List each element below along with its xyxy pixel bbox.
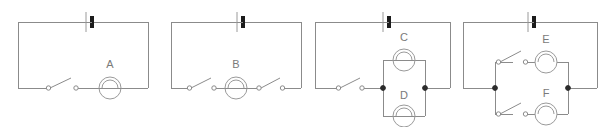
circuit-diagram-figure: A <box>0 0 608 127</box>
switch-terminal-right-icon <box>74 86 78 90</box>
lamp-a-label: A <box>106 58 114 70</box>
switch-blade-icon <box>500 51 521 62</box>
lamp-c-label: C <box>400 31 408 43</box>
switch-blade-icon <box>500 103 521 114</box>
switch-1-circuit-2[interactable] <box>187 78 216 90</box>
switch-terminal-left-icon <box>187 86 191 90</box>
switch-terminal-left-icon <box>336 86 340 90</box>
circuit-4-group: E F <box>463 12 597 125</box>
switch-terminal-left-icon <box>496 60 500 64</box>
lamp-c: C <box>393 31 415 71</box>
lamp-d: D <box>393 89 415 127</box>
circuit-2-group: B <box>171 12 301 99</box>
junction-node-right-3 <box>423 86 428 91</box>
switch-terminal-right-icon <box>212 86 216 90</box>
lamp-filament-arc-icon <box>102 80 118 88</box>
lamp-b: B <box>225 58 247 99</box>
switch-blade-icon <box>50 78 71 88</box>
switch-blade-icon <box>191 78 211 88</box>
lamp-filament-arc-icon <box>396 108 412 116</box>
switch-1-circuit-3[interactable] <box>336 78 364 90</box>
switch-blade-icon <box>261 78 280 88</box>
circuit-1-group: A <box>18 12 148 99</box>
lamp-d-label: D <box>400 89 408 101</box>
battery-cell-4 <box>528 12 534 32</box>
junction-node-right-4 <box>566 86 571 91</box>
switch-terminal-right-icon <box>523 60 527 64</box>
lamp-filament-arc-icon <box>228 80 244 88</box>
switch-blade-icon <box>340 78 360 88</box>
lamp-e: E <box>535 33 557 73</box>
lamp-f: F <box>535 87 557 125</box>
junction-node-left-3 <box>381 86 386 91</box>
lamp-filament-arc-icon <box>396 52 412 60</box>
battery-cell-2 <box>237 12 243 32</box>
lamp-e-label: E <box>542 33 549 45</box>
switch-terminal-right-icon <box>360 86 364 90</box>
lamp-filament-arc-icon <box>538 106 554 114</box>
lamp-a: A <box>99 58 121 99</box>
circuit-1: A <box>0 0 608 127</box>
switch-terminal-right-icon <box>523 112 527 116</box>
battery-cell-3 <box>383 12 389 32</box>
circuit-3-group: C D <box>315 12 450 127</box>
switch-terminal-right-icon <box>280 86 284 90</box>
battery-cell-1 <box>86 12 92 32</box>
junction-node-left-4 <box>493 86 498 91</box>
switch-terminal-left-icon <box>46 86 50 90</box>
switch-2-circuit-2[interactable] <box>257 78 285 90</box>
lamp-filament-arc-icon <box>538 54 554 62</box>
switch-terminal-left-icon <box>257 86 261 90</box>
lamp-b-label: B <box>232 58 239 70</box>
lamp-f-label: F <box>543 87 550 99</box>
switch-1-circuit-1[interactable] <box>46 78 78 90</box>
switch-terminal-left-icon <box>496 112 500 116</box>
